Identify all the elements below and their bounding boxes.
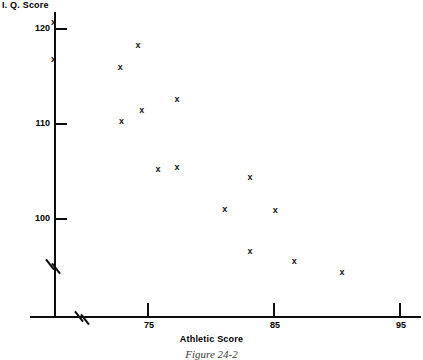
- y-tick-mark: [56, 218, 67, 220]
- x-tick-mark: [147, 303, 149, 316]
- x-tick-mark: [273, 303, 275, 316]
- x-tick-label: 95: [381, 320, 421, 330]
- data-point-marker: x: [133, 40, 142, 51]
- y-tick-label: 120: [14, 23, 50, 33]
- data-point-marker: x: [172, 94, 181, 105]
- data-point-marker: x: [220, 204, 229, 215]
- y-tick-label: 110: [14, 118, 50, 128]
- x-tick-label: 85: [255, 320, 295, 330]
- x-tick-mark: [399, 303, 401, 316]
- data-point-marker: x: [137, 105, 146, 116]
- x-axis-line: [30, 316, 421, 318]
- x-axis-title: Athletic Score: [0, 334, 423, 344]
- data-point-marker: x: [338, 267, 347, 278]
- y-axis-title: I. Q. Score: [2, 0, 49, 10]
- data-point-marker: x: [154, 164, 163, 175]
- data-point-marker: x: [116, 62, 125, 73]
- data-point-marker: x: [117, 116, 126, 127]
- x-tick-label: 75: [129, 320, 169, 330]
- y-tick-label: 100: [14, 213, 50, 223]
- data-point-marker: x: [246, 246, 255, 257]
- data-point-marker: x: [49, 54, 58, 65]
- y-tick-mark: [56, 123, 67, 125]
- data-point-marker: x: [49, 17, 58, 28]
- data-point-marker: x: [246, 172, 255, 183]
- y-tick-mark: [56, 28, 67, 30]
- figure-caption: Figure 24-2: [0, 348, 423, 360]
- data-point-marker: x: [290, 256, 299, 267]
- data-point-marker: x: [271, 205, 280, 216]
- data-point-marker: x: [172, 162, 181, 173]
